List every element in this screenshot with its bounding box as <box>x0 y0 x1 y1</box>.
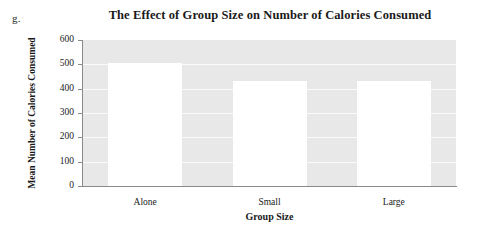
y-tick-mark <box>78 64 83 65</box>
plot-area <box>83 40 456 186</box>
y-tick-label: 500 <box>48 58 74 68</box>
chart-figure: g. The Effect of Group Size on Number of… <box>0 0 481 240</box>
bar <box>357 81 431 186</box>
y-tick-mark <box>78 89 83 90</box>
chart-title: The Effect of Group Size on Number of Ca… <box>70 8 470 23</box>
y-tick-label: 100 <box>48 156 74 166</box>
x-axis-title: Group Size <box>83 211 456 222</box>
x-tick-label: Large <box>354 197 434 207</box>
y-tick-label: 0 <box>48 180 74 190</box>
y-tick-mark <box>78 113 83 114</box>
y-tick-mark <box>78 40 83 41</box>
bar <box>233 81 307 186</box>
y-tick-label: 300 <box>48 107 74 117</box>
y-axis-title: Mean Number of Calories Consumed <box>27 33 37 193</box>
y-tick-mark <box>78 137 83 138</box>
item-marker: g. <box>12 12 21 24</box>
y-tick-label: 600 <box>48 34 74 44</box>
y-tick-label: 200 <box>48 131 74 141</box>
bar <box>108 63 182 186</box>
y-tick-label: 400 <box>48 83 74 93</box>
x-tick-label: Alone <box>105 197 185 207</box>
x-axis-line <box>78 186 457 187</box>
y-tick-mark <box>78 162 83 163</box>
y-tick-mark <box>78 186 83 187</box>
x-tick-label: Small <box>230 197 310 207</box>
